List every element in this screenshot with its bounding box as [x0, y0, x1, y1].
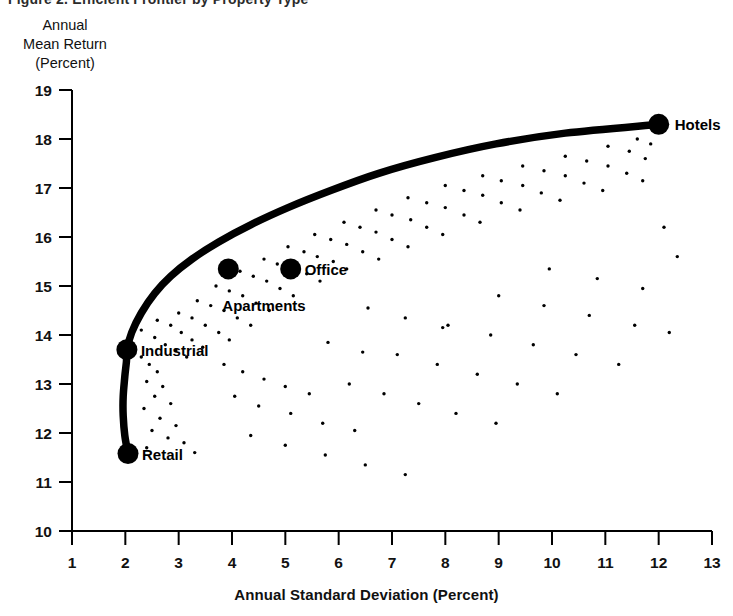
cloud-dot	[233, 395, 236, 398]
cloud-dot	[462, 213, 465, 216]
cloud-dot	[140, 328, 143, 331]
x-tick-label: 6	[334, 554, 343, 571]
cloud-dot	[217, 331, 220, 334]
y-tick-label: 17	[35, 180, 52, 197]
cloud-dot	[617, 363, 620, 366]
cloud-dot	[390, 213, 393, 216]
cloud-dot	[318, 279, 321, 282]
cloud-dot	[177, 311, 180, 314]
cloud-dot	[326, 341, 329, 344]
x-tick-label: 7	[388, 554, 397, 571]
cloud-dot	[500, 201, 503, 204]
property-marker-dot	[118, 443, 139, 464]
cloud-dot	[329, 238, 332, 241]
cloud-dot	[166, 436, 169, 439]
cloud-dot	[153, 336, 156, 339]
cloud-dot	[556, 392, 559, 395]
cloud-dot	[481, 194, 484, 197]
cloud-dot	[436, 363, 439, 366]
cloud-dot	[390, 238, 393, 241]
cloud-dot	[601, 189, 604, 192]
cloud-dot	[313, 233, 316, 236]
x-tick-label: 8	[441, 554, 450, 571]
cloud-dot	[180, 331, 183, 334]
cloud-dot	[668, 331, 671, 334]
cloud-dot	[174, 424, 177, 427]
cloud-dot	[222, 363, 225, 366]
cloud-dot	[636, 137, 639, 140]
cloud-dot	[361, 350, 364, 353]
cloud-dot	[241, 370, 244, 373]
cloud-dot	[358, 226, 361, 229]
x-tick-label: 4	[228, 554, 237, 571]
cloud-dot	[276, 262, 279, 265]
cloud-dot	[265, 279, 268, 282]
y-tick-label: 13	[35, 376, 53, 393]
property-marker-dot	[218, 258, 239, 279]
cloud-dot	[262, 257, 265, 260]
x-tick-label: 13	[703, 554, 721, 571]
frontier-path	[123, 124, 659, 453]
plot-area: 10111213141516171819 12345678910111213 R…	[0, 0, 733, 616]
cloud-dot	[342, 221, 345, 224]
cloud-dot	[150, 429, 153, 432]
cloud-dot	[161, 385, 164, 388]
cloud-dot	[444, 184, 447, 187]
cloud-dot	[425, 226, 428, 229]
cloud-dot	[542, 304, 545, 307]
cloud-dot	[478, 221, 481, 224]
cloud-dot	[236, 316, 239, 319]
cloud-dot	[585, 159, 588, 162]
x-tick-label: 11	[597, 554, 614, 571]
x-tick-label: 10	[543, 554, 560, 571]
cloud-dot	[308, 392, 311, 395]
cloud-dot	[262, 377, 265, 380]
cloud-dot	[249, 324, 252, 327]
cloud-dot	[649, 142, 652, 145]
x-axis-title: Annual Standard Deviation (Percent)	[0, 586, 733, 603]
cloud-dot	[633, 324, 636, 327]
efficient-frontier-curve	[123, 124, 659, 453]
cloud-dot	[148, 363, 151, 366]
property-marker-label: Office	[305, 261, 348, 278]
property-marker-label: Apartments	[222, 297, 305, 314]
cloud-dot	[574, 353, 577, 356]
cloud-dot	[257, 404, 260, 407]
cloud-dot	[582, 181, 585, 184]
y-tick-label: 12	[35, 425, 52, 442]
cloud-dot	[406, 196, 409, 199]
cloud-dot	[204, 324, 207, 327]
cloud-dot	[542, 169, 545, 172]
cloud-dot	[564, 174, 567, 177]
cloud-dot	[417, 402, 420, 405]
y-axis-ticks: 10111213141516171819	[35, 82, 72, 540]
cloud-dot	[321, 422, 324, 425]
cloud-dot	[404, 316, 407, 319]
cloud-dot	[156, 319, 159, 322]
cloud-dot	[289, 412, 292, 415]
cloud-dot	[444, 206, 447, 209]
cloud-dot	[497, 294, 500, 297]
x-tick-label: 2	[121, 554, 130, 571]
x-axis-ticks: 12345678910111213	[68, 531, 721, 571]
property-marker-dot	[116, 339, 137, 360]
y-tick-label: 11	[36, 474, 53, 491]
property-marker-dot	[648, 114, 669, 135]
axes	[72, 90, 712, 531]
cloud-dot	[548, 267, 551, 270]
cloud-dot	[441, 326, 444, 329]
cloud-dot	[588, 314, 591, 317]
cloud-dot	[606, 164, 609, 167]
property-marker-label: Retail	[142, 446, 183, 463]
cloud-dot	[366, 306, 369, 309]
y-tick-label: 10	[35, 523, 52, 540]
cloud-dot	[489, 333, 492, 336]
cloud-dot	[324, 453, 327, 456]
cloud-dot	[278, 287, 281, 290]
y-tick-label: 19	[35, 82, 53, 99]
cloud-dot	[446, 324, 449, 327]
cloud-dot	[518, 208, 521, 211]
cloud-dot	[396, 353, 399, 356]
cloud-dot	[316, 255, 319, 258]
cloud-dot	[481, 174, 484, 177]
